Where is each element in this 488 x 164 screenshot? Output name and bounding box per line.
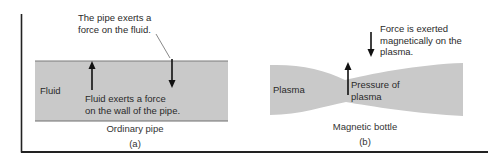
pipe-callout-line-2: force on the fluid. [78,24,151,36]
leader-line [156,34,170,58]
caption-magnetic-bottle: Magnetic bottle [310,121,420,132]
caption-ordinary-pipe: Ordinary pipe [85,123,185,134]
fluid-force-label: Fluid exerts a force on the wall of the … [85,93,180,116]
fluid-label: Fluid [40,85,61,97]
plasma-pressure-line-2: plasma [351,91,400,103]
magnetic-callout-line-3: plasma. [380,46,462,58]
magnetic-callout: Force is exerted magnetically on the pla… [380,23,462,58]
arrow-down-icon [368,32,375,57]
fluid-force-line-1: Fluid exerts a force [85,93,180,105]
fluid-force-line-2: on the wall of the pipe. [85,105,180,117]
panel-letter-a: (a) [115,138,155,149]
pipe-callout-line-1: The pipe exerts a [78,12,151,24]
pipe-callout: The pipe exerts a force on the fluid. [78,12,151,35]
panel-letter-b: (b) [345,136,385,147]
magnetic-callout-line-2: magnetically on the [380,35,462,47]
plasma-label: Plasma [273,84,305,96]
figure: The pipe exerts a force on the fluid. Fl… [0,0,488,164]
plasma-pressure-line-1: Pressure of [351,79,400,91]
magnetic-callout-line-1: Force is exerted [380,23,462,35]
plasma-pressure-label: Pressure of plasma [351,79,400,102]
